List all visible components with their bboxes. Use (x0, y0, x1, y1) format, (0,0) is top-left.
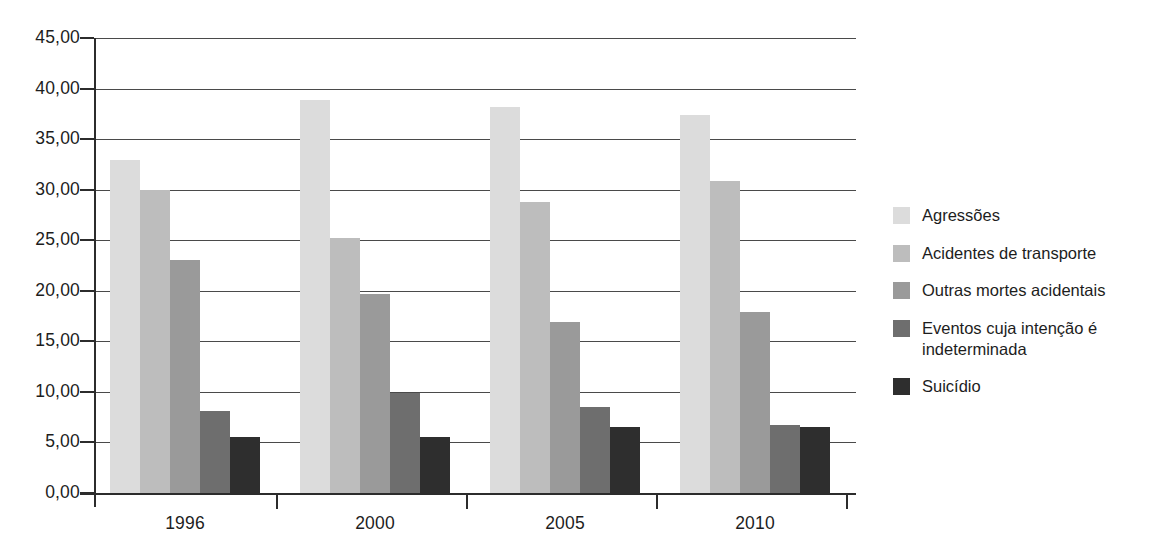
y-axis-tick-mark (80, 88, 94, 90)
legend-item[interactable]: Agressões (893, 205, 1163, 226)
bar[interactable] (300, 100, 330, 493)
bar[interactable] (110, 160, 140, 493)
y-axis-tick-mark (80, 37, 94, 39)
x-axis-tick-mark (276, 495, 278, 509)
legend-label: Acidentes de transporte (922, 243, 1096, 264)
bar[interactable] (360, 294, 390, 493)
bar[interactable] (140, 190, 170, 493)
legend-label: Outras mortes acidentais (922, 280, 1105, 301)
bar[interactable] (770, 425, 800, 493)
y-axis-tick-mark (80, 441, 94, 443)
bar-group (490, 38, 640, 493)
y-axis-tick-label: 15,00 (2, 333, 80, 351)
y-axis-tick-label: 0,00 (2, 484, 80, 502)
y-axis-tick-mark (80, 340, 94, 342)
y-axis-tick-label: 5,00 (2, 434, 80, 452)
y-axis-tick-mark (80, 290, 94, 292)
y-axis-tick-label: 20,00 (2, 282, 80, 300)
bar[interactable] (800, 427, 830, 493)
x-axis-tick-label: 1996 (165, 515, 205, 533)
x-axis-tick-label: 2000 (355, 515, 395, 533)
bar[interactable] (680, 115, 710, 493)
legend-swatch-icon (893, 207, 910, 224)
bar-group (680, 38, 830, 493)
bar[interactable] (550, 322, 580, 493)
y-axis-tick-label: 40,00 (2, 80, 80, 98)
y-axis-tick-label: 45,00 (2, 29, 80, 47)
x-axis-tick-mark (846, 495, 848, 509)
bar[interactable] (420, 437, 450, 493)
bar-groups (96, 38, 856, 493)
x-axis-tick-mark (656, 495, 658, 509)
y-axis-tick-label: 10,00 (2, 383, 80, 401)
bar[interactable] (390, 393, 420, 493)
legend-item[interactable]: Eventos cuja intenção é indeterminada (893, 318, 1163, 359)
x-axis-tick-mark (466, 495, 468, 509)
x-axis-tick-label: 2010 (735, 515, 775, 533)
x-axis-tick-label: 2005 (545, 515, 585, 533)
plot-area (96, 38, 856, 493)
x-axis: 1996200020052010 (96, 493, 856, 533)
bar[interactable] (520, 202, 550, 493)
legend-swatch-icon (893, 245, 910, 262)
bar-group (110, 38, 260, 493)
y-axis-tick-marks (80, 0, 94, 544)
bar[interactable] (330, 238, 360, 493)
y-axis-tick-label: 35,00 (2, 130, 80, 148)
legend-item[interactable]: Outras mortes acidentais (893, 280, 1163, 301)
y-axis-tick-mark (80, 138, 94, 140)
bar[interactable] (610, 427, 640, 493)
legend-label: Suicídio (922, 376, 981, 397)
grouped-bar-chart: 45,0040,0035,0030,0025,0020,0015,0010,00… (0, 0, 1164, 544)
legend-swatch-icon (893, 282, 910, 299)
legend: AgressõesAcidentes de transporteOutras m… (893, 205, 1163, 414)
y-axis: 45,0040,0035,0030,0025,0020,0015,0010,00… (0, 0, 80, 544)
y-axis-tick-mark (80, 239, 94, 241)
bar-group (300, 38, 450, 493)
legend-swatch-icon (893, 378, 910, 395)
bar[interactable] (490, 107, 520, 493)
bar[interactable] (580, 407, 610, 493)
bar[interactable] (170, 260, 200, 493)
bar[interactable] (230, 437, 260, 493)
legend-swatch-icon (893, 320, 910, 337)
y-axis-tick-mark (80, 189, 94, 191)
y-axis-tick-label: 25,00 (2, 231, 80, 249)
y-axis-tick-label: 30,00 (2, 181, 80, 199)
legend-label: Eventos cuja intenção é indeterminada (922, 318, 1137, 359)
legend-item[interactable]: Suicídio (893, 376, 1163, 397)
legend-item[interactable]: Acidentes de transporte (893, 243, 1163, 264)
legend-label: Agressões (922, 205, 1000, 226)
bar[interactable] (200, 411, 230, 493)
bar[interactable] (710, 181, 740, 493)
y-axis-tick-mark (80, 391, 94, 393)
bar[interactable] (740, 312, 770, 493)
